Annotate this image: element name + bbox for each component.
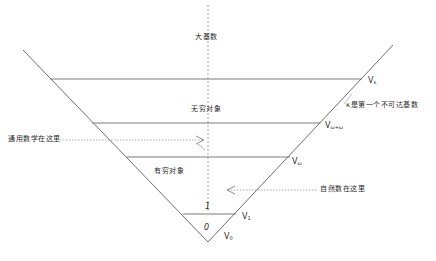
region-label-finite-objects: 有穷对象 xyxy=(154,168,184,175)
region-label-large-cardinals: 大基数 xyxy=(195,34,218,41)
level-label-v-omega-plus-omega: Vω+ω xyxy=(325,122,343,130)
level-label-v-0: V0 xyxy=(224,233,233,241)
region-label-zero: 0 xyxy=(204,224,209,232)
annotation-general-math: 通用数学在这里 xyxy=(8,136,61,143)
hierarchy-diagram xyxy=(0,0,436,261)
annotation-kappa-inaccessible: κ是第一个不可达基数 xyxy=(346,102,418,109)
annotation-natural-numbers: 自然数在这里 xyxy=(320,186,365,193)
general-math-curve xyxy=(198,144,205,150)
level-label-v-1: V1 xyxy=(242,213,251,221)
level-subscript: 0 xyxy=(229,235,232,241)
level-label-v-omega: Vω xyxy=(292,158,302,166)
level-label-v-kappa: Vκ xyxy=(368,77,376,85)
general-math-arrowhead xyxy=(196,136,204,144)
cone-right-edge xyxy=(208,45,393,242)
level-subscript: ω xyxy=(297,160,301,166)
region-label-one: 1 xyxy=(205,203,210,211)
level-subscript: ω+ω xyxy=(330,124,343,130)
region-label-infinite-objects: 无穷对象 xyxy=(191,106,221,113)
level-subscript: κ xyxy=(373,79,376,85)
level-subscript: 1 xyxy=(247,215,250,221)
